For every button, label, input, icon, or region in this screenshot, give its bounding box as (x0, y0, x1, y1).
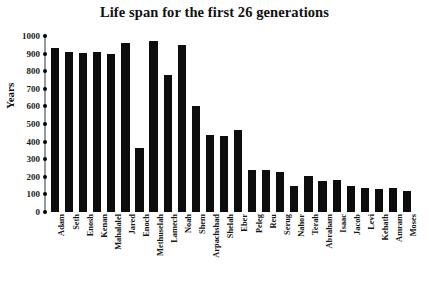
y-tick-label: 300 (27, 153, 44, 165)
bar (403, 191, 411, 212)
x-label-slot: Methuselah (147, 214, 161, 284)
y-tick-label: 200 (27, 171, 44, 183)
y-tick: 600 (0, 100, 48, 112)
bar-slot (273, 30, 287, 212)
bar-slot (330, 30, 344, 212)
x-label-slot: Terah (301, 214, 315, 284)
bar (248, 170, 256, 212)
bar-slot (132, 30, 146, 212)
x-label-slot: Enoch (132, 214, 146, 284)
y-tick-marker (43, 210, 47, 214)
x-label-slot: Adam (48, 214, 62, 284)
bar-slot (175, 30, 189, 212)
bar-slot (358, 30, 372, 212)
y-tick-label: 900 (27, 48, 44, 60)
x-label-slot: Levi (358, 214, 372, 284)
plot-area (48, 30, 414, 212)
y-tick-marker (43, 87, 47, 91)
x-label-slot: Jacob (344, 214, 358, 284)
bar (121, 43, 129, 212)
bar (178, 45, 186, 212)
bar (220, 136, 228, 212)
bar (361, 188, 369, 212)
bar (375, 189, 383, 212)
bar (107, 54, 115, 212)
bar-slot (90, 30, 104, 212)
x-label-slot: Abraham (315, 214, 329, 284)
bar-slot (372, 30, 386, 212)
bar (65, 52, 73, 213)
x-label-slot: Nahor (287, 214, 301, 284)
x-label-slot: Shelah (217, 214, 231, 284)
y-axis-ticks: 10009008007006005004003002001000 (0, 0, 48, 284)
x-label-slot: Arpachshad (203, 214, 217, 284)
bar (318, 181, 326, 212)
x-label-slot: Isaac (330, 214, 344, 284)
bar-slot (189, 30, 203, 212)
bar-slot (259, 30, 273, 212)
x-label-slot: Peleg (245, 214, 259, 284)
y-tick-marker (43, 52, 47, 56)
bar (149, 41, 157, 212)
bar-slot (147, 30, 161, 212)
bar (79, 53, 87, 212)
x-label-slot: Moses (400, 214, 414, 284)
y-tick: 800 (0, 65, 48, 77)
bar (192, 106, 200, 212)
x-label-slot: Mahalalel (104, 214, 118, 284)
bar (276, 172, 284, 212)
y-tick-marker (43, 175, 47, 179)
bar (290, 186, 298, 212)
bar-slot (301, 30, 315, 212)
x-label-slot: Noah (175, 214, 189, 284)
bar-slot (217, 30, 231, 212)
bar (262, 170, 270, 212)
bar-slot (386, 30, 400, 212)
y-tick-label: 0 (36, 206, 44, 218)
bar-slot (104, 30, 118, 212)
bar-slot (48, 30, 62, 212)
y-tick-label: 500 (27, 118, 44, 130)
bar-slot (344, 30, 358, 212)
y-tick-label: 700 (27, 83, 44, 95)
x-label-slot: Serug (273, 214, 287, 284)
x-label-slot: Seth (62, 214, 76, 284)
bar-slot (315, 30, 329, 212)
y-tick-label: 800 (27, 65, 44, 77)
y-tick-label: 600 (27, 100, 44, 112)
bar-slot (118, 30, 132, 212)
y-tick: 400 (0, 136, 48, 148)
y-tick-marker (43, 104, 47, 108)
bar-slot (400, 30, 414, 212)
y-tick-marker (43, 122, 47, 126)
bar-slot (161, 30, 175, 212)
x-label-slot: Jared (118, 214, 132, 284)
y-tick: 700 (0, 83, 48, 95)
bar (51, 48, 59, 212)
bar-chart-figure: Life span for the first 26 generations Y… (0, 0, 429, 284)
bar (347, 186, 355, 212)
x-label-slot: Kenan (90, 214, 104, 284)
x-label-slot: Shem (189, 214, 203, 284)
y-tick-label: 400 (27, 136, 44, 148)
bar (206, 135, 214, 212)
bar-slot (203, 30, 217, 212)
bar-series (48, 30, 414, 212)
y-tick: 0 (0, 206, 48, 218)
bar-slot (62, 30, 76, 212)
x-label-slot: Enosh (76, 214, 90, 284)
bar (164, 75, 172, 212)
y-tick-marker (43, 34, 47, 38)
chart-title: Life span for the first 26 generations (0, 4, 429, 21)
bar (333, 180, 341, 212)
y-tick-marker (43, 157, 47, 161)
x-axis-tick-label: Moses (410, 214, 418, 236)
bar (93, 52, 101, 212)
y-tick-label: 100 (27, 188, 44, 200)
y-tick-marker (43, 192, 47, 196)
y-tick: 200 (0, 171, 48, 183)
bar (135, 148, 143, 212)
bar-slot (287, 30, 301, 212)
bar (304, 176, 312, 212)
y-tick-marker (43, 140, 47, 144)
